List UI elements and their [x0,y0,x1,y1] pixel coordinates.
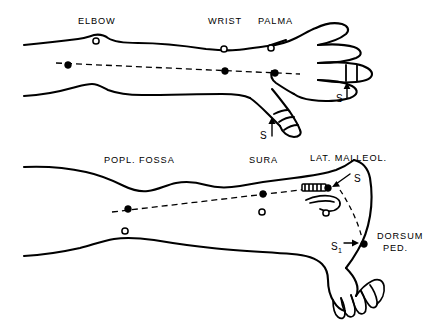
elbow-reference-electrode [93,38,99,44]
lat-malleolus-recording-electrode [325,185,332,192]
label-elbow: ELBOW [78,16,116,26]
label-wrist: WRIST [208,16,242,26]
label-dorsum-pedis-line1: DORSUM [377,231,423,241]
elbow-recording-electrode [65,62,72,69]
label-palma: PALMA [258,16,293,26]
label-lateral-malleolus: LAT. MALLEOL. [310,153,387,163]
stim-label-lat-malleolus: S [354,173,361,184]
anatomical-diagram: ELBOW WRIST PALMA POPL. FOSSA SURA LAT. … [0,0,441,330]
lat-malleolus-reference-electrode [323,210,329,216]
stim-label-dorsum-pedis-subscript: 1 [338,247,342,254]
wrist-recording-electrode [222,68,229,75]
wrist-reference-electrode [221,46,227,52]
stimulator-electrode-patch [302,184,326,191]
popliteal-fossa-reference-electrode [122,228,128,234]
label-dorsum-pedis-line2: PED. [383,243,408,253]
sura-recording-electrode [260,191,267,198]
palma-recording-electrode [272,70,279,77]
sura-reference-electrode [259,209,265,215]
palma-reference-electrode [268,45,274,51]
figure-root: ELBOW WRIST PALMA POPL. FOSSA SURA LAT. … [0,0,441,330]
label-sura: SURA [249,155,278,165]
stim-label-dorsum-pedis: S [331,241,338,252]
dorsum-pedis-recording-electrode [361,241,368,248]
popliteal-fossa-recording-electrode [125,206,132,213]
stim-label-finger: S [336,93,343,104]
label-popliteal-fossa: POPL. FOSSA [104,155,175,165]
stim-label-thumb: S [260,130,267,141]
